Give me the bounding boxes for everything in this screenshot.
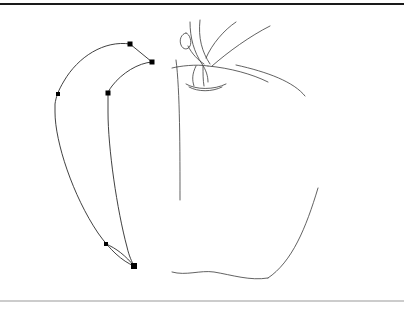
banana-outer-path[interactable]	[55, 43, 134, 266]
node-left-upper[interactable]	[56, 92, 60, 96]
branch-curve-two-path[interactable]	[212, 26, 270, 66]
banana-top-connector-path[interactable]	[130, 44, 152, 62]
artwork-svg[interactable]	[0, 0, 404, 317]
leaf-path[interactable]	[180, 33, 191, 49]
leaf-vein-path[interactable]	[188, 46, 204, 64]
apple-body-left-path[interactable]	[176, 60, 180, 200]
branch-curve-three-path[interactable]	[193, 66, 196, 86]
apple-shape[interactable]	[172, 60, 318, 279]
node-bottom-left[interactable]	[104, 242, 108, 246]
apple-shoulder-right-path[interactable]	[208, 66, 268, 82]
node-bottom-tip[interactable]	[131, 263, 137, 269]
banana-bottom-connector-path[interactable]	[106, 244, 134, 266]
node-top-outer[interactable]	[128, 42, 133, 47]
apple-body-right-path[interactable]	[236, 65, 305, 96]
stem-right-path[interactable]	[199, 20, 210, 64]
node-top-right[interactable]	[150, 60, 155, 65]
node-inner-upper[interactable]	[106, 91, 111, 96]
apple-bottom-path[interactable]	[172, 272, 268, 279]
apple-lower-right-path[interactable]	[268, 188, 318, 278]
banana-inner-path[interactable]	[108, 62, 152, 266]
branch-curve-one-path[interactable]	[206, 22, 236, 58]
node-handle-layer[interactable]	[56, 42, 155, 270]
banana-shape[interactable]	[55, 43, 152, 266]
apple-stem-group[interactable]	[186, 20, 226, 91]
drawing-canvas[interactable]	[0, 0, 404, 317]
stem-left-path[interactable]	[190, 22, 208, 82]
stem-base-path[interactable]	[203, 66, 204, 86]
